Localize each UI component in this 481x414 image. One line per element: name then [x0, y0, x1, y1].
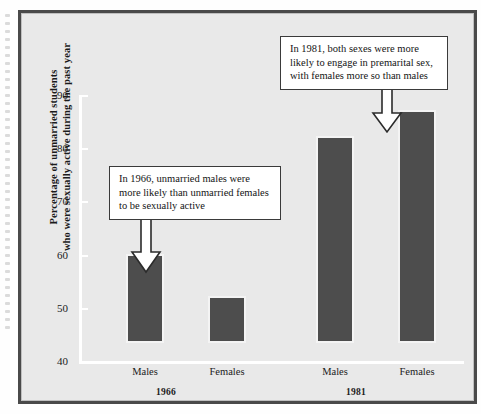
x-label-1981-females: Females: [380, 366, 454, 377]
y-tick-label-70: 70: [36, 195, 68, 207]
bar-1981-males[interactable]: [318, 138, 352, 341]
y-tick-label-40: 40: [36, 355, 68, 367]
bar-1966-females[interactable]: [210, 298, 244, 341]
y-tick-label-80: 80: [36, 142, 68, 154]
callout-1-arrow-icon: [130, 218, 162, 274]
callout-1981: In 1981, both sexes were more likely to …: [280, 36, 448, 90]
group-label-1981: 1981: [301, 387, 411, 397]
y-tick-90: [79, 95, 88, 97]
bar-1981-females[interactable]: [400, 112, 434, 341]
x-label-1966-females: Females: [190, 366, 264, 377]
y-tick-70: [79, 201, 88, 203]
callout-1966: In 1966, unmarried males were more likel…: [109, 166, 281, 220]
y-tick-60: [79, 255, 88, 257]
y-tick-40: [79, 361, 88, 363]
y-tick-label-50: 50: [36, 302, 68, 314]
callout-2-arrow-icon: [371, 88, 403, 134]
y-tick-50: [79, 308, 88, 310]
plot-area: Percentage of unmarried students who wer…: [18, 10, 477, 404]
y-axis-line: [79, 95, 82, 362]
scan-edge-artifact: [0, 14, 14, 400]
y-tick-label-60: 60: [36, 249, 68, 261]
chart-page: Percentage of unmarried students who wer…: [0, 0, 481, 414]
x-label-1981-males: Males: [298, 366, 372, 377]
y-tick-label-90: 90: [36, 89, 68, 101]
x-axis-line: [79, 361, 464, 364]
x-label-1966-males: Males: [108, 366, 182, 377]
group-label-1966: 1966: [111, 387, 221, 397]
y-tick-80: [79, 148, 88, 150]
